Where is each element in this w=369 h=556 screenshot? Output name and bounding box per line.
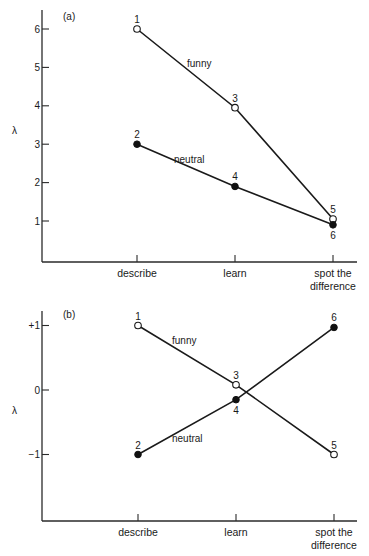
data-point-funny xyxy=(331,451,338,458)
data-point-funny xyxy=(135,322,142,329)
y-tick-label: 6 xyxy=(34,24,40,35)
point-number-label: 5 xyxy=(331,440,337,451)
x-category-label: learn xyxy=(223,267,247,279)
series-label-funny: funny xyxy=(172,335,196,346)
panel-label: (b) xyxy=(63,309,75,320)
y-axis-label: λ xyxy=(12,405,17,416)
series-line-neutral xyxy=(138,327,334,454)
point-number-label: 4 xyxy=(233,405,239,416)
x-category-label: difference xyxy=(311,539,357,551)
panel-a: (a)λ123456describelearnspot thedifferenc… xyxy=(12,10,357,292)
point-number-label: 3 xyxy=(232,93,238,104)
data-point-funny xyxy=(233,382,240,389)
y-tick-label: −1 xyxy=(29,449,41,460)
point-number-label: 1 xyxy=(134,14,140,25)
panel-b: (b)λ+10−1describelearnspot thedifference… xyxy=(12,309,357,551)
series-line-funny xyxy=(137,29,333,219)
y-tick-label: 1 xyxy=(34,216,40,227)
y-tick-label: +1 xyxy=(29,320,41,331)
point-number-label: 5 xyxy=(330,204,336,215)
data-point-neutral xyxy=(233,396,240,403)
point-number-label: 1 xyxy=(135,311,141,322)
point-number-label: 2 xyxy=(134,129,140,140)
series-line-funny xyxy=(138,326,334,455)
y-tick-label: 5 xyxy=(34,62,40,73)
series-label-funny: funny xyxy=(187,58,211,69)
x-category-label: learn xyxy=(224,526,248,538)
y-tick-label: 4 xyxy=(34,100,40,111)
y-axis-label: λ xyxy=(12,125,17,136)
figure: (a)λ123456describelearnspot thedifferenc… xyxy=(0,0,369,556)
x-category-label: describe xyxy=(118,526,158,538)
data-point-funny xyxy=(232,104,239,111)
point-number-label: 2 xyxy=(135,440,141,451)
data-point-neutral xyxy=(330,222,337,229)
series-label-neutral: neutral xyxy=(172,433,203,444)
data-point-neutral xyxy=(232,183,239,190)
y-tick-label: 3 xyxy=(34,139,40,150)
x-category-label: describe xyxy=(117,267,157,279)
point-number-label: 6 xyxy=(331,312,337,323)
x-category-label: spot the xyxy=(315,526,353,538)
panel-label: (a) xyxy=(63,11,75,22)
data-point-neutral xyxy=(331,324,338,331)
y-tick-label: 2 xyxy=(34,177,40,188)
series-label-neutral: neutral xyxy=(174,154,205,165)
point-number-label: 3 xyxy=(233,370,239,381)
x-category-label: difference xyxy=(310,280,356,292)
point-number-label: 4 xyxy=(232,171,238,182)
data-point-funny xyxy=(134,26,141,33)
point-number-label: 6 xyxy=(330,230,336,241)
data-point-neutral xyxy=(134,141,141,148)
two-panel-line-chart: (a)λ123456describelearnspot thedifferenc… xyxy=(0,0,369,556)
data-point-neutral xyxy=(135,451,142,458)
x-category-label: spot the xyxy=(314,267,352,279)
y-tick-label: 0 xyxy=(34,385,40,396)
